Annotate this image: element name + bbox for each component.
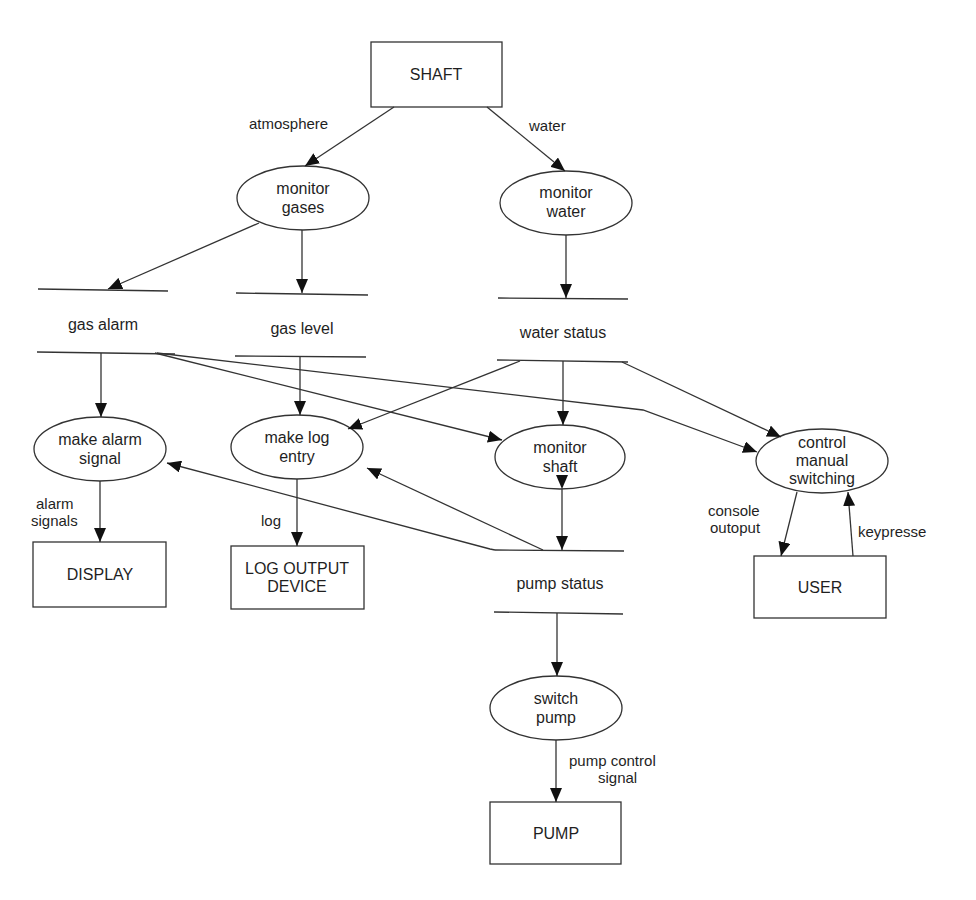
monitor-water-label-line2: water	[546, 203, 585, 221]
gas-level-store-label: gas level	[270, 320, 333, 338]
flow-label-keypresse: keypresse	[858, 523, 926, 540]
flow-label-log: log	[261, 512, 281, 529]
flow-water-status-to-log-entry	[348, 361, 520, 429]
pump-status-store-label: pump status	[516, 575, 603, 593]
make-log-entry-label-line1: make log	[265, 429, 330, 447]
flow-gas-alarm-to-monitor-shaft	[155, 353, 502, 440]
switch-pump-process	[490, 676, 622, 740]
control-manual-switching-label-line3: switching	[789, 470, 855, 488]
monitor-shaft-process	[495, 425, 625, 489]
flow-pump-status-to-alarm-signal	[167, 463, 495, 550]
flow-label-pump-control-signal-line2: signal	[598, 769, 637, 786]
control-manual-switching-label-line2: manual	[796, 452, 848, 470]
flow-keypresse	[848, 492, 853, 556]
monitor-gases-label-line2: gases	[282, 199, 325, 217]
pump-label: PUMP	[533, 825, 579, 843]
flow-label-console-output-line2: outoput	[710, 519, 760, 536]
flow-label-alarm-signals-line1: alarm	[36, 495, 74, 512]
flow-label-alarm-signals-line2: signals	[31, 512, 78, 529]
display-label: DISPLAY	[67, 566, 133, 584]
control-manual-switching-label-line1: control	[798, 434, 846, 452]
log-output-device-label-line1: LOG OUTPUT	[245, 560, 349, 578]
flow-gases-to-gas-alarm	[108, 223, 259, 289]
flow-water-status-to-control	[622, 362, 781, 437]
make-log-entry-label-line2: entry	[279, 448, 315, 466]
make-alarm-signal-label-line1: make alarm	[58, 431, 142, 449]
flow-label-water: water	[529, 117, 566, 134]
water-status-store-label: water status	[520, 324, 606, 342]
make-log-entry-process	[231, 415, 363, 479]
switch-pump-label-line1: switch	[534, 690, 578, 708]
make-alarm-signal-process	[34, 417, 166, 481]
gas-alarm-store-label: gas alarm	[68, 316, 138, 334]
monitor-gases-process	[237, 166, 369, 230]
flow-label-console-output-line1: console	[708, 502, 760, 519]
log-output-device-label-line2: DEVICE	[267, 578, 327, 596]
shaft-label: SHAFT	[410, 66, 462, 84]
flow-label-atmosphere: atmosphere	[249, 115, 328, 132]
switch-pump-label-line2: pump	[536, 709, 576, 727]
make-alarm-signal-label-line2: signal	[79, 450, 121, 468]
flow-console-output	[781, 492, 797, 556]
monitor-shaft-label-line2: shaft	[543, 458, 578, 476]
monitor-shaft-label-line1: monitor	[533, 439, 586, 457]
user-label: USER	[798, 579, 842, 597]
monitor-gases-label-line1: monitor	[276, 180, 329, 198]
flow-label-pump-control-signal-line1: pump control	[569, 752, 656, 769]
flow-gas-alarm-to-control	[157, 353, 757, 452]
monitor-water-label-line1: monitor	[539, 184, 592, 202]
